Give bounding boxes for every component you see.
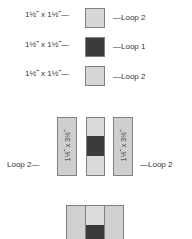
left-strip-dimension: 1½˝ x 3½˝ <box>64 125 71 167</box>
assembled-block <box>66 205 124 239</box>
size-label: 1½˝ x 1½˝— <box>25 10 69 20</box>
top-light-cell <box>86 206 104 225</box>
left-loop-label: Loop 2— <box>7 160 39 170</box>
loop-label: —Loop 2 <box>113 72 145 82</box>
center-strip <box>86 117 105 176</box>
right-strip: 1½˝ x 3½˝ <box>113 117 133 176</box>
square-light <box>85 8 105 28</box>
center-dark-cell <box>86 225 104 239</box>
size-label: 1½˝ x 1½˝— <box>25 69 69 79</box>
size-label: 1½˝ x 1½˝— <box>25 40 69 50</box>
right-loop-label: —Loop 2 <box>140 160 172 170</box>
left-strip: 1½˝ x 3½˝ <box>57 117 77 176</box>
center-dark-square <box>87 136 104 156</box>
right-strip-dimension: 1½˝ x 3½˝ <box>120 125 127 167</box>
square-dark <box>85 37 105 57</box>
loop-label: —Loop 2 <box>113 13 145 23</box>
loop-label: —Loop 1 <box>113 42 145 52</box>
square-light <box>85 66 105 86</box>
divider <box>104 206 105 239</box>
